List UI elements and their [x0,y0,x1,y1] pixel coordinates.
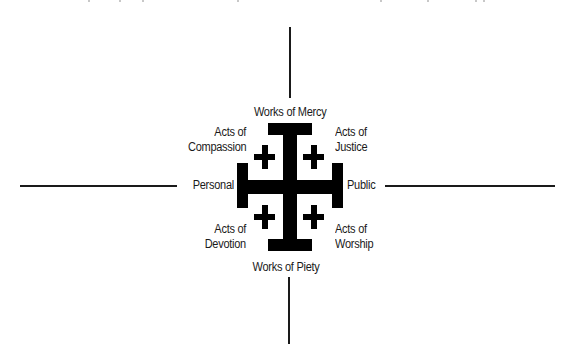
label-acts-of-compassion: Acts of Compassion [170,125,246,155]
small-cross-bottom-right-icon [303,205,324,229]
axis-line-right [385,185,555,187]
small-cross-top-left-icon [254,145,275,169]
label-acts-of-devotion: Acts of Devotion [170,222,246,252]
label-works-of-mercy: Works of Mercy [230,105,350,120]
axis-line-top [289,27,291,98]
cross-left-crossbar [237,163,248,208]
small-cross-bottom-left-icon [254,205,275,229]
axis-line-left [20,185,177,187]
label-works-of-piety: Works of Piety [226,260,346,275]
small-cross-top-right-icon [303,145,324,169]
axis-line-bottom [288,277,290,344]
label-acts-of-justice: Acts of Justice [335,125,372,155]
cross-horizontal-beam [237,180,343,194]
label-personal: Personal [170,178,234,193]
label-acts-of-worship: Acts of Worship [335,222,379,252]
label-public: Public [347,178,379,193]
cross-right-crossbar [332,163,343,208]
